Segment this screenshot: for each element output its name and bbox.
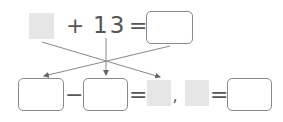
equals-sign-top: = bbox=[129, 15, 145, 37]
blank-square-top[interactable] bbox=[29, 13, 54, 39]
plus-sign: + bbox=[66, 15, 82, 37]
comma: , bbox=[170, 88, 180, 104]
arrow-answer-to-box1 bbox=[44, 46, 170, 76]
number-13: 13 bbox=[93, 14, 121, 37]
blank-square-second[interactable] bbox=[185, 80, 209, 106]
answer-box-minuend[interactable] bbox=[18, 78, 64, 111]
answer-box-subtrahend[interactable] bbox=[83, 78, 128, 111]
answer-box-top[interactable] bbox=[146, 11, 193, 44]
equals-sign-bottom-1: = bbox=[129, 84, 145, 106]
blank-square-result[interactable] bbox=[147, 80, 171, 106]
equals-sign-bottom-2: = bbox=[210, 84, 226, 106]
answer-box-final[interactable] bbox=[227, 78, 272, 111]
minus-sign: − bbox=[65, 84, 81, 106]
